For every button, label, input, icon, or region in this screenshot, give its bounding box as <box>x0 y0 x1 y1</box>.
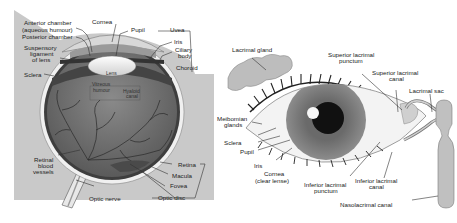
label-iris-right: Iris <box>254 162 262 169</box>
label-meibomian-2: glands <box>224 121 242 128</box>
label-lacrimal-sac: Lacrimal sac <box>409 87 444 94</box>
label-iris: Iris <box>174 38 182 45</box>
label-pupil: Pupil <box>131 26 145 33</box>
external-eye-lacrimal: Lacrimal gland Superior lacrimal punctum… <box>217 46 454 208</box>
label-suspensory-3: of lens <box>32 56 50 63</box>
highlight <box>307 107 319 119</box>
label-uvea: Uvea <box>170 26 185 33</box>
label-inferior-punctum-2: punctum <box>314 187 338 194</box>
label-fovea: Fovea <box>170 182 188 189</box>
label-hyaloid-2: canal <box>126 93 138 99</box>
label-posterior-chamber: Posterior chamber <box>22 33 73 40</box>
label-cornea-2: (clear lense) <box>255 177 289 184</box>
eye-cross-section: Anterior chamber (aqueous humour) Poster… <box>14 10 214 208</box>
label-retina: Retina <box>178 161 196 168</box>
label-cornea-1: Cornea <box>264 170 285 177</box>
label-optic-nerve: Optic nerve <box>89 195 121 202</box>
label-choroid: Choroid <box>176 64 198 71</box>
label-superior-punctum-2: punctum <box>339 57 363 64</box>
label-sclera: Sclera <box>24 71 42 78</box>
label-ciliary-body-2: body <box>178 52 192 59</box>
label-lacrimal-gland: Lacrimal gland <box>232 46 273 53</box>
label-superior-canal-2: canal <box>389 75 404 82</box>
label-retinal-3: vessels <box>33 168 54 175</box>
label-cornea: Cornea <box>92 18 113 25</box>
label-aqueous-humour: (aqueous humour) <box>22 26 73 33</box>
label-inferior-canal-2: canal <box>369 183 384 190</box>
pupil-shape <box>312 102 344 134</box>
label-nasolacrimal-canal: Nasolacrimal canal <box>340 201 392 208</box>
label-lens: Lens <box>106 70 117 76</box>
label-pupil-right: Pupil <box>240 148 254 155</box>
eye-anatomy-figure: Anterior chamber (aqueous humour) Poster… <box>0 0 457 223</box>
label-macula: Macula <box>172 172 193 179</box>
label-optic-disc: Optic disc <box>158 194 185 201</box>
lacrimal-sac-shape <box>436 100 454 208</box>
label-anterior-chamber: Anterior chamber <box>24 19 71 26</box>
label-vitreous-2: humour <box>93 87 110 93</box>
label-sclera-right: Sclera <box>224 139 242 146</box>
